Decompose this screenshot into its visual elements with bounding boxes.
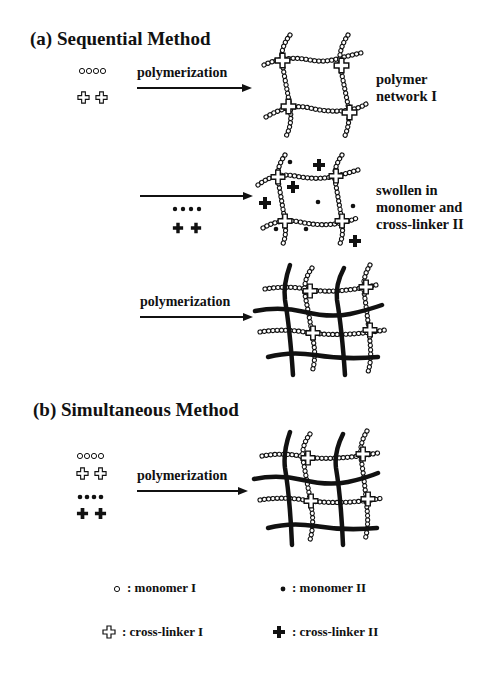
arrow-a1-label: polymerization — [137, 65, 227, 81]
caption-line: network I — [376, 88, 437, 105]
polymer-network-1 — [264, 35, 366, 138]
legend-crosslinker-2-icon — [273, 626, 285, 638]
arrow-a3-label: polymerization — [140, 294, 230, 310]
b-reactant-monomer-2 — [78, 495, 104, 500]
reactant-crosslinker-1-group — [78, 92, 107, 103]
arrow-a2 — [140, 192, 253, 200]
reactant-monomer-1-group — [79, 68, 105, 73]
legend-monomer-1-icon — [114, 586, 119, 591]
b-reactant-crosslinker-1 — [77, 468, 106, 479]
reactant-monomer-2-group — [173, 207, 201, 211]
caption-line: monomer and — [376, 199, 464, 216]
legend-crosslinker-2-label: : cross-linker II — [292, 624, 378, 640]
caption-line: cross-linker II — [376, 216, 464, 233]
swollen-caption: swollen in monomer and cross-linker II — [376, 182, 464, 233]
legend-monomer-2-icon — [281, 587, 286, 592]
legend-monomer-1-label: : monomer I — [127, 580, 196, 596]
b-reactant-monomer-1 — [77, 453, 103, 458]
swollen-network — [258, 155, 358, 246]
legend-monomer-2-label: : monomer II — [292, 580, 366, 596]
caption-line: swollen in — [376, 182, 464, 199]
arrow-a1 — [137, 84, 252, 92]
arrow-b1-label: polymerization — [137, 468, 227, 484]
b-reactant-crosslinker-2 — [77, 508, 106, 519]
legend-crosslinker-1-icon — [103, 626, 115, 638]
network-1-caption: polymer network I — [376, 71, 437, 105]
section-a-heading: (a) Sequential Method — [30, 28, 211, 50]
reactant-crosslinker-2-group — [173, 223, 201, 233]
legend-crosslinker-1-label: : cross-linker I — [122, 624, 203, 640]
arrow-b1 — [137, 487, 248, 495]
section-b-heading: (b) Simultaneous Method — [33, 399, 239, 421]
caption-line: polymer — [376, 71, 437, 88]
arrow-a3 — [140, 313, 253, 321]
